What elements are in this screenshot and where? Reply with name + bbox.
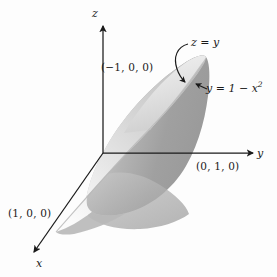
axis-label-y: y xyxy=(257,148,263,159)
point-label-0-1-0: (0, 1, 0) xyxy=(196,161,239,172)
math-figure-3d-solid: z y x (−1, 0, 0) (0, 1, 0) (1, 0, 0) z =… xyxy=(0,0,277,277)
annotation-cylinder-equation: y = 1 − x2 xyxy=(206,83,263,94)
cylinder-equation-prefix: y = 1 xyxy=(206,82,239,95)
cylinder-equation-exponent: 2 xyxy=(258,80,263,89)
annotation-plane-equation: z = y xyxy=(191,37,219,48)
axis-label-x: x xyxy=(36,258,42,269)
point-label-neg-1-0-0: (−1, 0, 0) xyxy=(101,62,153,73)
cylinder-equation-variable: x xyxy=(248,82,258,95)
cylinder-equation-minus: − xyxy=(239,82,248,95)
point-label-1-0-0: (1, 0, 0) xyxy=(8,208,51,219)
axis-label-z: z xyxy=(92,8,98,19)
figure-canvas xyxy=(0,0,277,277)
